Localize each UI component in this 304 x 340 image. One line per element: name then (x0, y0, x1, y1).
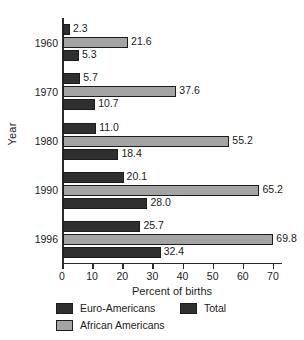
x-axis-tick-mark (62, 264, 64, 269)
bar-group: 25.769.832.4 (63, 221, 282, 258)
bar-chart-figure: Year 19601970198019901996 2.321.65.35.73… (0, 0, 304, 340)
x-axis-tick-label: 70 (260, 270, 286, 283)
bar-value-label: 69.8 (276, 232, 296, 245)
bar[interactable] (63, 198, 147, 209)
bar-row: 11.0 (63, 123, 283, 134)
x-axis-tick-label: 0 (49, 270, 75, 283)
bar-value-label: 37.6 (179, 84, 199, 97)
x-axis-title: Percent of births (62, 285, 282, 297)
x-axis-tick-mark (243, 264, 245, 269)
bar-row: 20.1 (63, 172, 283, 183)
y-axis-tick-label: 1960 (24, 37, 58, 49)
bar[interactable] (63, 172, 124, 183)
legend-label: Euro-Americans (80, 302, 155, 315)
bar-value-label: 25.7 (143, 219, 163, 232)
bar-value-label: 11.0 (99, 121, 119, 134)
bar-value-label: 21.6 (131, 35, 151, 48)
bar[interactable] (63, 99, 95, 110)
bar-row: 2.3 (63, 24, 283, 35)
bar-row: 65.2 (63, 185, 283, 196)
legend-item[interactable]: African Americans (56, 319, 165, 332)
bar[interactable] (63, 149, 118, 160)
y-axis-tick-label: 1980 (24, 135, 58, 147)
y-axis-tick-label: 1996 (24, 233, 58, 245)
x-axis-tick-label: 10 (79, 270, 105, 283)
bar-row: 37.6 (63, 86, 283, 97)
bar-value-label: 20.1 (127, 170, 147, 183)
bar[interactable] (63, 24, 70, 35)
bar-group: 20.165.228.0 (63, 172, 282, 209)
bar-value-label: 18.4 (121, 147, 141, 160)
legend-label: Total (204, 302, 226, 315)
legend-swatch-icon (180, 303, 197, 314)
legend-label: African Americans (80, 319, 165, 332)
bar-value-label: 5.3 (82, 48, 97, 61)
bar[interactable] (63, 136, 229, 147)
bar-value-label: 5.7 (83, 71, 98, 84)
bar-row: 69.8 (63, 234, 283, 245)
bar[interactable] (63, 50, 79, 61)
y-axis-tick-labels: 19601970198019901996 (20, 18, 58, 264)
bar[interactable] (63, 234, 273, 245)
x-axis-tick-label: 40 (170, 270, 196, 283)
bar-value-label: 55.2 (232, 134, 252, 147)
bar-row: 28.0 (63, 198, 283, 209)
bar[interactable] (63, 86, 176, 97)
bar[interactable] (63, 247, 161, 258)
bar-group: 5.737.610.7 (63, 73, 282, 110)
bar-row: 21.6 (63, 37, 283, 48)
x-axis-tick-mark (183, 264, 185, 269)
x-axis-tick-label: 60 (230, 270, 256, 283)
plot-area: 2.321.65.35.737.610.711.055.218.420.165.… (62, 18, 282, 264)
bar-group: 11.055.218.4 (63, 123, 282, 160)
x-axis-tick-mark (273, 264, 275, 269)
bar[interactable] (63, 37, 128, 48)
bar-row: 55.2 (63, 136, 283, 147)
bar-row: 5.3 (63, 50, 283, 61)
x-axis-tick-label: 20 (109, 270, 135, 283)
legend-swatch-icon (56, 320, 73, 331)
x-axis-tick-mark (213, 264, 215, 269)
x-axis-tick-mark (152, 264, 154, 269)
legend-item[interactable]: Euro-Americans (56, 302, 155, 315)
bar-value-label: 2.3 (73, 22, 88, 35)
legend-item[interactable]: Total (180, 302, 226, 315)
y-axis-tick-label: 1990 (24, 184, 58, 196)
y-axis-tick-label: 1970 (24, 86, 58, 98)
chart-legend: Euro-AmericansAfrican AmericansTotal (56, 302, 286, 336)
bar-value-label: 28.0 (150, 196, 170, 209)
x-axis-tick-label: 50 (200, 270, 226, 283)
bar-row: 25.7 (63, 221, 283, 232)
y-axis-title: Year (6, 106, 18, 162)
bar-row: 5.7 (63, 73, 283, 84)
bar[interactable] (63, 185, 259, 196)
bar-value-label: 32.4 (164, 245, 184, 258)
bar[interactable] (63, 73, 80, 84)
bar-value-label: 65.2 (262, 183, 282, 196)
bar-row: 18.4 (63, 149, 283, 160)
bar-group: 2.321.65.3 (63, 24, 282, 61)
bar-value-label: 10.7 (98, 97, 118, 110)
legend-swatch-icon (56, 303, 73, 314)
bar-row: 10.7 (63, 99, 283, 110)
bar-row: 32.4 (63, 247, 283, 258)
bar[interactable] (63, 221, 140, 232)
x-axis-tick-mark (122, 264, 124, 269)
x-axis-tick-mark (92, 264, 94, 269)
bar[interactable] (63, 123, 96, 134)
x-axis-ticks: 010203040506070 (62, 264, 286, 286)
x-axis-tick-label: 30 (139, 270, 165, 283)
